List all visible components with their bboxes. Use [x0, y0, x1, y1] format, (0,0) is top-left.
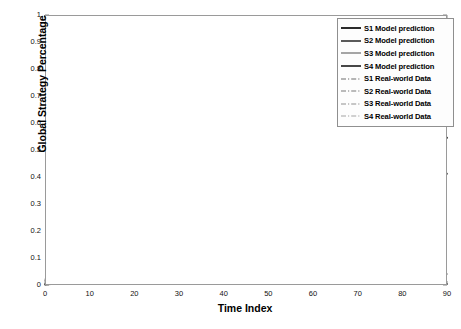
legend-line-swatch	[340, 86, 362, 96]
x-tick-label: 30	[165, 289, 193, 298]
x-tick-label: 10	[76, 289, 104, 298]
x-tick-label: 40	[210, 289, 238, 298]
legend-item-label: S2 Real-world Data	[364, 87, 431, 96]
legend-line-swatch	[340, 111, 362, 121]
legend-item-label: S1 Real-world Data	[364, 74, 431, 83]
legend-line-swatch	[340, 48, 362, 58]
legend-item-2[interactable]: S2 Model prediction	[340, 35, 450, 48]
chart-figure: 00.10.20.30.40.50.60.70.80.91 0102030405…	[0, 0, 461, 329]
legend-line-swatch	[340, 99, 362, 109]
legend-item-1[interactable]: S1 Model prediction	[340, 22, 450, 35]
y-tick-label: 0.3	[17, 199, 41, 208]
legend-item-label: S1 Model prediction	[364, 24, 434, 33]
x-tick-label: 80	[388, 289, 416, 298]
legend-item-label: S4 Real-world Data	[364, 112, 431, 121]
y-tick-label: 0.1	[17, 253, 41, 262]
y-tick-label: 0.4	[17, 172, 41, 181]
x-tick-label: 60	[299, 289, 327, 298]
x-tick-label: 70	[344, 289, 372, 298]
legend-item-label: S4 Model prediction	[364, 62, 434, 71]
x-tick-label: 0	[31, 289, 59, 298]
legend-item-label: S2 Model prediction	[364, 36, 434, 45]
y-tick-label: 0	[17, 280, 41, 289]
x-tick-label: 50	[254, 289, 282, 298]
legend-item-label: S3 Real-world Data	[364, 99, 431, 108]
legend-item-4[interactable]: S4 Model prediction	[340, 60, 450, 73]
legend-item-3[interactable]: S3 Model prediction	[340, 47, 450, 60]
legend-item-5[interactable]: S1 Real-world Data	[340, 72, 450, 85]
x-axis-title: Time Index	[140, 302, 350, 314]
legend-line-swatch	[340, 74, 362, 84]
legend-line-swatch	[340, 36, 362, 46]
y-tick-label: 0.2	[17, 226, 41, 235]
legend: S1 Model predictionS2 Model predictionS3…	[337, 18, 454, 127]
x-tick-label: 90	[433, 289, 461, 298]
legend-item-6[interactable]: S2 Real-world Data	[340, 85, 450, 98]
y-axis-title: Global Strategy Percentage	[36, 4, 48, 164]
legend-line-swatch	[340, 23, 362, 33]
legend-item-label: S3 Model prediction	[364, 49, 434, 58]
legend-item-7[interactable]: S3 Real-world Data	[340, 98, 450, 111]
legend-line-swatch	[340, 61, 362, 71]
legend-item-8[interactable]: S4 Real-world Data	[340, 110, 450, 123]
x-tick-label: 20	[120, 289, 148, 298]
